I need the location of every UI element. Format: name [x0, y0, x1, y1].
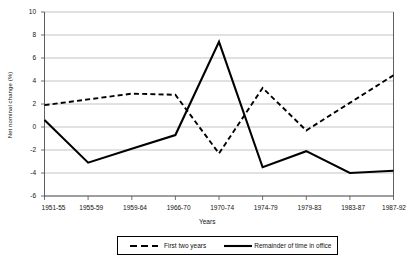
- chart-container: Net nominal change (%) 10 8 6 4 2 0 -2 -…: [0, 0, 416, 266]
- x-tickmarks: [45, 196, 394, 200]
- y-tickmarks: [41, 12, 45, 196]
- x-tick-label-1979-83: 1979-83: [285, 205, 335, 212]
- x-tick-label-1966-70: 1966-70: [154, 205, 204, 212]
- legend-item-first-two-years: First two years: [129, 237, 206, 254]
- x-axis-title: Years: [199, 218, 215, 225]
- x-tick-label-1955-59: 1955-59: [66, 205, 116, 212]
- legend-label-first-two-years: First two years: [164, 242, 206, 249]
- legend-label-remainder-of-time: Remainder of time in office: [254, 242, 331, 249]
- legend-solid-line-icon: [223, 241, 253, 251]
- legend-item-remainder-of-time: Remainder of time in office: [223, 237, 331, 254]
- legend-dashed-line-icon: [129, 241, 159, 251]
- chart-legend: First two years Remainder of time in off…: [117, 236, 338, 255]
- x-tick-label-1987-92: 1987-92: [369, 205, 416, 212]
- x-tick-label-1959-64: 1959-64: [110, 205, 160, 212]
- plot-area: [0, 0, 416, 266]
- x-tick-label-1974-79: 1974-79: [241, 205, 291, 212]
- x-tick-label-1970-74: 1970-74: [197, 205, 247, 212]
